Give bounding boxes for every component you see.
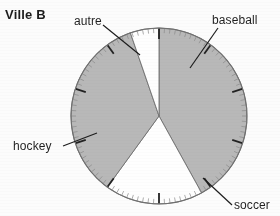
slice-label-hockey: hockey <box>13 139 52 153</box>
slice-label-soccer: soccer <box>234 198 270 212</box>
pie-sectors <box>71 28 247 204</box>
chart-page: Ville B autre baseball hockey soccer <box>0 0 280 216</box>
slice-label-baseball: baseball <box>212 13 258 27</box>
slice-label-autre: autre <box>74 14 102 28</box>
pie-chart <box>0 0 280 216</box>
page-title: Ville B <box>5 7 46 22</box>
